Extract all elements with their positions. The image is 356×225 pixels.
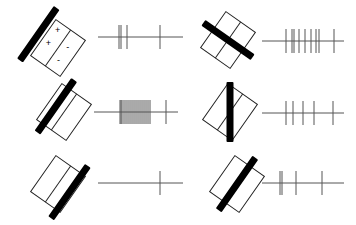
spike-train: [94, 100, 178, 124]
inhibitory-sign: -: [57, 55, 60, 65]
receptive-field-diagram: ++--: [0, 0, 356, 225]
panel-top-right: [201, 12, 344, 69]
excitatory-sign: +: [46, 38, 51, 48]
excitatory-sign: +: [55, 25, 60, 35]
spike-train: [262, 101, 344, 125]
panel-middle-right: [203, 82, 344, 142]
spike-train: [262, 29, 344, 53]
inhibitory-sign: -: [66, 42, 69, 52]
panel-bottom-right: [210, 156, 344, 213]
panel-bottom-left: [31, 156, 183, 221]
spike-train: [98, 171, 183, 195]
spike-train: [98, 25, 183, 49]
spike-train: [262, 171, 344, 195]
panel-middle-left: [35, 78, 178, 140]
stimulus-bar: [227, 82, 234, 142]
panel-top-left: ++--: [17, 6, 183, 76]
